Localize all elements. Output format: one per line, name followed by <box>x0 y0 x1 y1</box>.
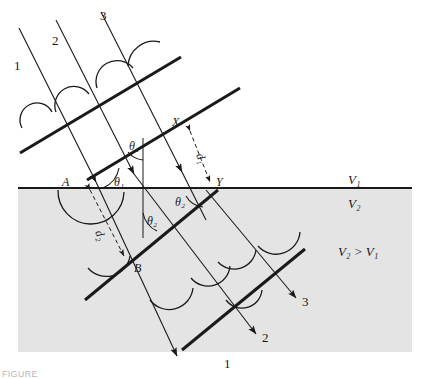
theta2-normal-label: θ₂ <box>147 214 157 228</box>
incident-wavefront-2 <box>87 88 240 180</box>
figure-caption: FIGURE <box>0 369 427 379</box>
point-x-label: X <box>171 115 180 129</box>
theta1-interface-label: θ₁ <box>114 175 124 189</box>
refracted-ray-2-label: 2 <box>262 330 269 345</box>
velocity-2-label: V₂ <box>348 196 361 211</box>
medium-2-region <box>18 188 412 352</box>
point-a-label: A <box>61 175 70 189</box>
point-b-label: B <box>134 261 142 275</box>
wavelet-upper-1 <box>20 103 52 128</box>
wavelet-upper-2 <box>55 86 89 112</box>
diagram-canvas: 1 2 3 1 2 3 A B X Y θ₁ θ₁ θ₂ θ₂ d₁ d₂ V₁… <box>0 0 427 379</box>
incident-ray-1-label: 1 <box>14 58 21 73</box>
incident-ray-2 <box>56 20 134 174</box>
incident-ray-1 <box>19 28 96 182</box>
incident-ray-3-label: 3 <box>100 8 107 23</box>
incident-ray-2-label: 2 <box>52 33 59 48</box>
distance-d1-label: d₁ <box>193 151 210 166</box>
velocity-1-label: V₁ <box>348 172 360 187</box>
velocity-relation-label: V₂ > V₁ <box>338 244 378 259</box>
refracted-ray-3-label: 3 <box>302 294 309 309</box>
refraction-figure: 1 2 3 1 2 3 A B X Y θ₁ θ₁ θ₂ θ₂ d₁ d₂ V₁… <box>0 0 427 379</box>
point-y-label: Y <box>216 175 224 189</box>
wavelet-upper-4 <box>128 41 160 66</box>
theta2-interface-label: θ₂ <box>175 195 185 209</box>
theta1-wavefront-label: θ₁ <box>129 139 139 153</box>
